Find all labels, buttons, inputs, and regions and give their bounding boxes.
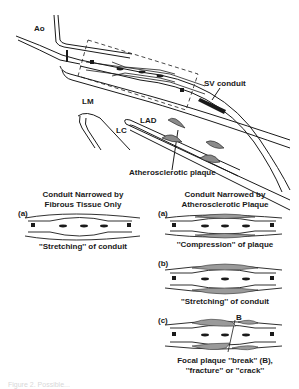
break-marker-b: B (236, 313, 242, 322)
right-panel-title-line1: Conduit Narrowed by (160, 190, 290, 200)
right-panel-c-letter: (c) (158, 316, 168, 325)
right-panel-c-caption-line1: Focal plaque ''break'' (B), (160, 356, 290, 366)
right-panel-a-letter: (a) (158, 209, 168, 218)
right-panel-title-line2: Atherosclerotic Plaque (160, 200, 290, 210)
left-panel-title-line1: Conduit Narrowed by (18, 190, 148, 200)
label-lad: LAD (140, 116, 156, 125)
right-panel-a-caption: ''Compression'' of plaque (160, 240, 290, 250)
label-left-circumflex: LC (116, 126, 127, 135)
left-panel-title-line2: Fibrous Tissue Only (18, 200, 148, 210)
right-panel-c-caption-line2: ''fracture'' or ''crack'' (160, 366, 290, 376)
right-panel-b-letter: (b) (158, 259, 168, 268)
label-left-main: LM (82, 97, 94, 106)
figure-caption-partial: Figure 2. Possible... (8, 381, 70, 388)
label-sv-conduit: SV conduit (204, 79, 246, 88)
label-atherosclerotic-plaque: Atherosclerotic plaque (129, 168, 216, 177)
right-panel-b-caption: ''Stretching'' of conduit (160, 297, 290, 307)
left-panel-a-letter: (a) (18, 209, 28, 218)
label-aorta: Ao (34, 24, 45, 33)
left-panel-a-caption: ''Stretching'' of conduit (18, 242, 148, 252)
